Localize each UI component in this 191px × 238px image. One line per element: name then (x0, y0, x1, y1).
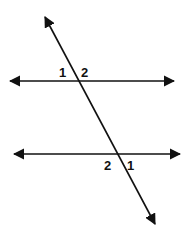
angle-label-top-left: 1 (59, 65, 66, 80)
transversal-line (45, 17, 155, 224)
angle-label-top-right: 2 (81, 65, 88, 80)
angle-label-bottom-right: 1 (127, 158, 134, 173)
parallel-lines-transversal-diagram: 1 2 2 1 (0, 0, 191, 238)
angle-label-bottom-left: 2 (104, 158, 111, 173)
